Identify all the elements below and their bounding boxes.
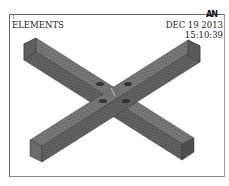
ansys-logo: AN (206, 10, 217, 19)
time-stamp: 15:10:39 (185, 30, 223, 40)
plot-label: ELEMENTS (12, 20, 64, 30)
date-stamp: DEC 19 2013 (166, 20, 223, 30)
